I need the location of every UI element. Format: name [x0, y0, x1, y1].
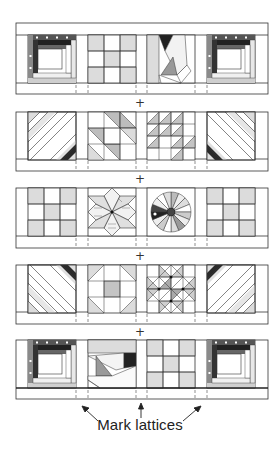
nine-patch-block: [28, 188, 76, 236]
join-plus-4: +: [135, 325, 145, 339]
quilt-row-3: [16, 188, 268, 248]
dresden-plate-block: [147, 188, 195, 236]
log-cabin-block: [28, 35, 76, 83]
crazy-patch-block: [147, 35, 195, 83]
triangle-block: [88, 112, 136, 160]
quilt-diagram: + + + +: [0, 0, 280, 449]
shoo-fly-block: [88, 265, 136, 313]
join-plus-3: +: [135, 249, 145, 263]
join-plus-1: +: [135, 96, 145, 110]
crazy-patch-block: [88, 340, 136, 388]
log-cabin-block: [207, 35, 255, 83]
eight-point-star-block: [88, 188, 136, 236]
caption-mark-lattices: Mark lattices: [0, 416, 280, 433]
join-plus-2: +: [135, 172, 145, 186]
log-cabin-block: [28, 340, 76, 388]
triangle-grid-block: [147, 112, 195, 160]
nine-patch-block: [88, 35, 136, 83]
nine-patch-block: [207, 188, 255, 236]
nine-patch-block: [147, 340, 195, 388]
log-cabin-block: [207, 340, 255, 388]
quilt-row-1: [16, 23, 268, 94]
pinwheel-star-block: [147, 265, 195, 313]
quilt-row-5: [16, 340, 268, 399]
